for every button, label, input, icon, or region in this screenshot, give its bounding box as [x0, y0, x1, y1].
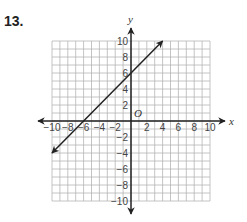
- y-tick-label: 8: [122, 52, 128, 63]
- x-tick-label: −4: [94, 122, 106, 133]
- x-tick-label: 4: [160, 122, 166, 133]
- coordinate-plane: −10−8−6−4−2246810108642−2−4−6−8−10 x y O: [0, 0, 247, 222]
- y-axis-label: y: [127, 13, 133, 25]
- x-tick-label: −8: [62, 122, 74, 133]
- y-tick-label: −10: [111, 196, 128, 207]
- y-tick-label: −8: [117, 180, 129, 191]
- x-tick-label: 10: [204, 122, 216, 133]
- y-tick-label: −6: [117, 164, 129, 175]
- y-tick-label: 4: [122, 84, 128, 95]
- x-tick-label: −10: [44, 122, 61, 133]
- y-tick-label: 10: [117, 36, 129, 47]
- x-tick-label: 6: [176, 122, 182, 133]
- x-tick-label: −6: [78, 122, 90, 133]
- y-tick-label: −4: [117, 148, 129, 159]
- x-axis-label: x: [228, 115, 234, 127]
- y-tick-label: −2: [117, 132, 129, 143]
- y-tick-label: 2: [122, 100, 128, 111]
- x-tick-label: 2: [144, 122, 150, 133]
- axes: [38, 28, 225, 214]
- origin-label: O: [134, 107, 142, 119]
- x-tick-label: 8: [191, 122, 197, 133]
